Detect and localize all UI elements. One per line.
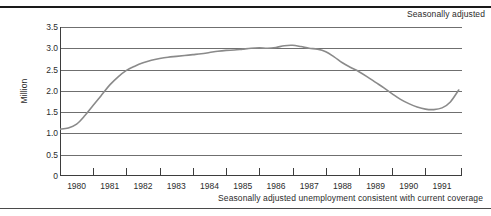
line-chart-svg [60,27,462,176]
y-tick-label: 0 [32,172,58,181]
y-axis-tick-labels: 00.51.01.52.02.53.03.5 [28,27,58,176]
unemployment-data-line [60,45,459,129]
chart-figure: Seasonally adjusted Million 00.51.01.52.… [0,0,491,216]
y-tick-label: 2.5 [32,66,58,75]
x-axis-ticks [94,168,426,176]
y-tick-label: 1.5 [32,108,58,117]
gridlines [60,28,462,156]
chart-caption: Seasonally adjusted unemployment consist… [218,193,483,203]
seasonally-adjusted-note: Seasonally adjusted [407,9,485,19]
x-tick-label: 1991 [422,182,462,191]
bottom-divider-rule [0,208,491,209]
plot-area [60,27,462,176]
top-divider-rule [0,6,491,8]
y-tick-label: 3.5 [32,23,58,32]
y-tick-label: 1.0 [32,129,58,138]
y-tick-label: 2.0 [32,87,58,96]
y-tick-label: 0.5 [32,151,58,160]
axis-frame [60,27,462,176]
y-tick-label: 3.0 [32,44,58,53]
